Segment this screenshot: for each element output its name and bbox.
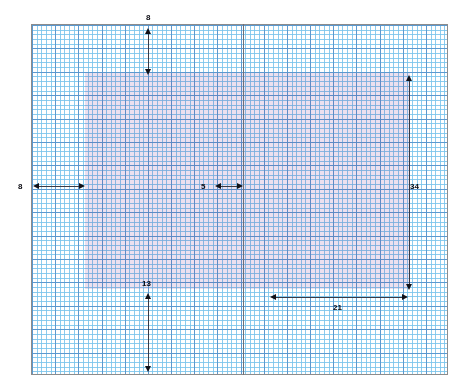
- dimension-label-bottom-width: 21: [333, 303, 342, 312]
- arrow-left-icon: [270, 294, 276, 300]
- dimension-line-left-gap: [38, 186, 80, 187]
- dimension-label-top-gap: 8: [146, 13, 150, 22]
- dimension-line-top-gap: [148, 33, 149, 70]
- dimension-label-inner-gap: 5: [201, 182, 205, 191]
- arrow-up-icon: [145, 293, 151, 299]
- arrow-down-icon: [406, 284, 412, 290]
- dimension-line-bottom-gap: [148, 298, 149, 367]
- dimension-line-bottom-width: [275, 297, 403, 298]
- dimension-label-left-gap: 8: [18, 182, 22, 191]
- dimension-line-inner-gap: [220, 186, 238, 187]
- diagram-canvas: 8 8 5 34 13 21: [0, 0, 471, 391]
- arrow-right-icon: [237, 183, 243, 189]
- arrow-down-icon: [145, 366, 151, 372]
- graph-paper-grid: [31, 24, 448, 375]
- dimension-label-bottom-gap: 13: [142, 279, 151, 288]
- dimension-label-right-height: 34: [410, 182, 419, 191]
- arrow-right-icon: [402, 294, 408, 300]
- arrow-up-icon: [145, 28, 151, 34]
- arrow-right-icon: [79, 183, 85, 189]
- arrow-up-icon: [406, 75, 412, 81]
- vertical-divider: [243, 24, 244, 375]
- arrow-left-icon: [33, 183, 39, 189]
- arrow-left-icon: [215, 183, 221, 189]
- dimension-line-right-height: [409, 80, 410, 285]
- arrow-down-icon: [145, 69, 151, 75]
